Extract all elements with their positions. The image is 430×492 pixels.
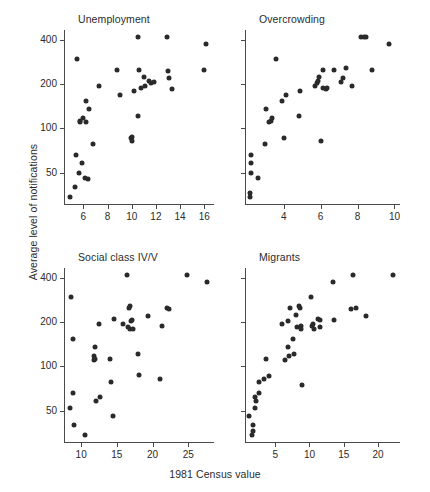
x-tick	[275, 442, 276, 447]
data-point	[117, 92, 122, 97]
data-point	[69, 294, 74, 299]
data-point	[80, 161, 85, 166]
x-tick	[83, 204, 84, 209]
data-point	[83, 98, 88, 103]
data-point	[340, 76, 345, 81]
panel-social-class: Social class IV/V 5010020040010152025	[64, 268, 214, 443]
data-point	[129, 139, 134, 144]
data-point	[109, 380, 114, 385]
x-tick	[153, 442, 154, 447]
data-point	[247, 191, 252, 196]
data-point	[128, 303, 133, 308]
x-tick-label: 25	[183, 450, 194, 460]
x-tick	[394, 204, 395, 209]
data-point	[74, 152, 79, 157]
y-tick-label: 100	[40, 361, 57, 371]
x-tick	[117, 442, 118, 447]
data-point	[280, 321, 285, 326]
data-point	[318, 139, 323, 144]
data-point	[136, 351, 141, 356]
data-point	[75, 56, 80, 61]
data-point	[97, 83, 102, 88]
plot-area: 501002004006810121416	[64, 30, 214, 205]
data-point	[354, 306, 359, 311]
panel-migrants: Migrants 5101520	[245, 268, 400, 443]
data-point	[250, 422, 255, 427]
plot-area: 46810	[245, 30, 400, 205]
plot-area: 5101520	[245, 268, 400, 443]
data-point	[261, 377, 266, 382]
x-tick	[81, 442, 82, 447]
x-tick	[378, 442, 379, 447]
data-point	[325, 85, 330, 90]
data-point	[159, 324, 164, 329]
x-axis-spine	[64, 442, 214, 443]
data-point	[67, 406, 72, 411]
x-tick-label: 10	[304, 450, 315, 460]
data-point	[286, 353, 291, 358]
panel-overcrowding: Overcrowding 46810	[245, 30, 400, 205]
y-tick	[60, 322, 65, 323]
plot-area: 5010020040010152025	[64, 268, 214, 443]
x-axis-spine	[245, 442, 400, 443]
data-point	[267, 374, 272, 379]
x-tick-label: 10	[389, 212, 400, 222]
x-tick-label: 10	[126, 212, 137, 222]
data-point	[250, 429, 255, 434]
data-point	[315, 79, 320, 84]
data-point	[264, 107, 269, 112]
data-point	[297, 306, 302, 311]
data-point	[94, 399, 99, 404]
data-point	[135, 35, 140, 40]
data-point	[202, 68, 207, 73]
data-point	[131, 327, 136, 332]
data-point	[263, 142, 268, 147]
data-point	[72, 184, 77, 189]
data-point	[299, 382, 304, 387]
panel-title: Overcrowding	[259, 13, 325, 25]
data-point	[249, 152, 254, 157]
data-point	[97, 321, 102, 326]
y-tick	[60, 411, 65, 412]
data-point	[363, 35, 368, 40]
panel-title: Social class IV/V	[78, 251, 158, 263]
scatterplot-matrix-figure: Average level of notifications 1981 Cens…	[0, 0, 430, 492]
x-tick-label: 14	[175, 212, 186, 222]
y-tick	[60, 128, 65, 129]
data-point	[248, 170, 253, 175]
x-tick	[188, 442, 189, 447]
data-point	[141, 74, 146, 79]
data-point	[299, 324, 304, 329]
data-point	[129, 317, 134, 322]
data-point	[71, 336, 76, 341]
data-point	[84, 120, 89, 125]
data-point	[391, 273, 396, 278]
data-point	[292, 351, 297, 356]
x-tick	[108, 204, 109, 209]
data-point	[255, 175, 260, 180]
data-point	[248, 161, 253, 166]
data-point	[252, 406, 257, 411]
panel-title: Unemployment	[78, 13, 150, 25]
x-tick	[204, 204, 205, 209]
data-point	[97, 394, 102, 399]
data-point	[110, 413, 115, 418]
data-point	[166, 69, 171, 74]
data-point	[256, 390, 261, 395]
data-point	[285, 345, 290, 350]
data-point	[317, 317, 322, 322]
data-point	[143, 83, 148, 88]
data-point	[137, 372, 142, 377]
data-point	[311, 327, 316, 332]
data-point	[283, 358, 288, 363]
x-tick-label: 8	[355, 212, 361, 222]
data-point	[291, 336, 296, 341]
data-point	[70, 390, 75, 395]
x-tick-label: 20	[147, 450, 158, 460]
x-tick	[344, 442, 345, 447]
data-point	[151, 79, 156, 84]
data-point	[343, 65, 348, 70]
y-tick-label: 50	[46, 406, 57, 416]
x-tick	[284, 204, 285, 209]
data-point	[107, 357, 112, 362]
